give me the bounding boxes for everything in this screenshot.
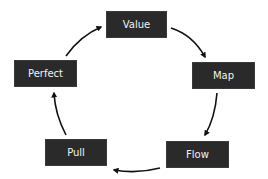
node-perfect: Perfect [14, 60, 77, 87]
arrow-pull-to-perfect [54, 93, 66, 135]
node-pull: Pull [45, 139, 107, 166]
node-map-label: Map [213, 70, 234, 81]
node-value-label: Value [123, 19, 150, 30]
arrow-value-to-map [171, 28, 205, 57]
node-perfect-label: Perfect [28, 68, 63, 79]
arrow-map-to-flow [205, 93, 217, 135]
node-value: Value [106, 11, 167, 38]
node-flow: Flow [166, 141, 229, 168]
node-flow-label: Flow [186, 149, 209, 160]
arrow-perfect-to-value [66, 27, 101, 56]
node-map: Map [192, 62, 255, 89]
node-pull-label: Pull [67, 147, 85, 158]
arrow-flow-to-pull [114, 168, 160, 172]
